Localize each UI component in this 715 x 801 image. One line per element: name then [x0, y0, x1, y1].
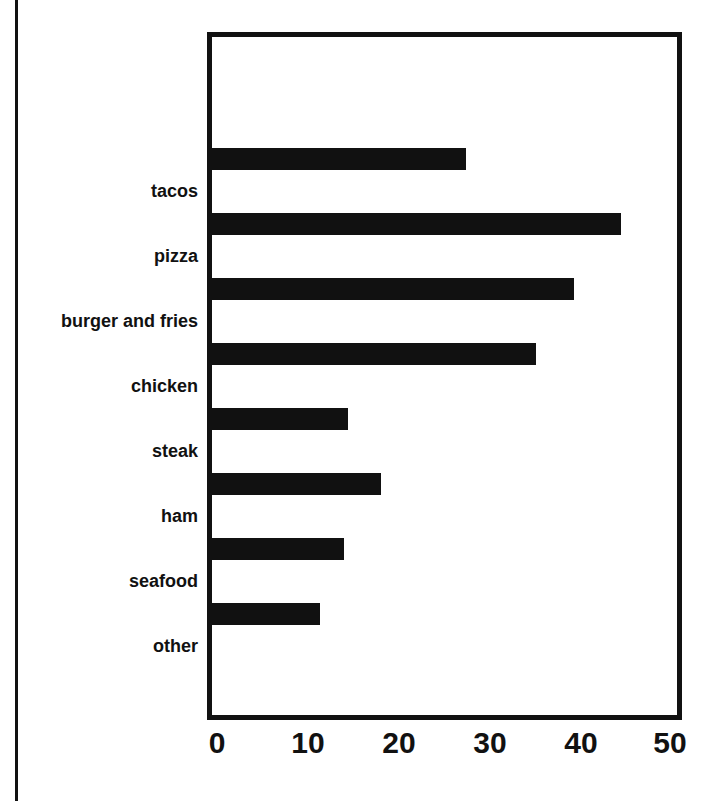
- x-tick-label-0: 0: [209, 724, 226, 762]
- x-tick-label-30: 30: [473, 724, 506, 762]
- plot-area: [207, 32, 682, 720]
- category-label-tacos: tacos: [0, 180, 198, 202]
- category-label-chicken: chicken: [0, 375, 198, 397]
- x-tick-label-20: 20: [382, 724, 415, 762]
- bar-chicken: [212, 343, 536, 365]
- category-label-burger-and-fries: burger and fries: [0, 310, 198, 332]
- category-label-other: other: [0, 635, 198, 657]
- category-label-pizza: pizza: [0, 245, 198, 267]
- x-axis-tick-labels: 0 10 20 30 40 50: [0, 724, 715, 774]
- bar-seafood: [212, 538, 344, 560]
- bar-burger-and-fries: [212, 278, 574, 300]
- category-label-seafood: seafood: [0, 570, 198, 592]
- x-tick-label-50: 50: [653, 724, 686, 762]
- category-label-steak: steak: [0, 440, 198, 462]
- category-label-ham: ham: [0, 505, 198, 527]
- bar-tacos: [212, 148, 466, 170]
- bar-other: [212, 603, 320, 625]
- category-axis-labels: tacos pizza burger and fries chicken ste…: [0, 32, 198, 720]
- x-tick-label-40: 40: [564, 724, 597, 762]
- bar-steak: [212, 408, 348, 430]
- bar-ham: [212, 473, 381, 495]
- bar-series: [212, 32, 682, 720]
- x-tick-label-10: 10: [291, 724, 324, 762]
- bar-pizza: [212, 213, 621, 235]
- chart-page: tacos pizza burger and fries chicken ste…: [0, 0, 715, 801]
